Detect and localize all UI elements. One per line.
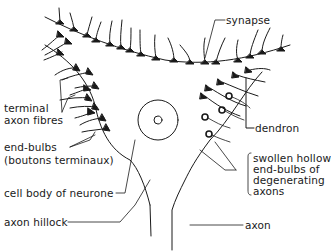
- axon-left-outline: [150, 205, 151, 236]
- label-terminal-axon-fibres-2: axon fibres: [4, 114, 63, 126]
- label-axon: axon: [245, 219, 271, 231]
- cell-body: [138, 100, 178, 140]
- label-axon-hillock: axon hillock: [4, 216, 68, 228]
- label-cell-body: cell body of neurone: [4, 187, 114, 199]
- dendron-line: [246, 78, 254, 128]
- right-synapses: [200, 67, 270, 128]
- label-dendron: dendron: [255, 122, 299, 134]
- label-synapse: synapse: [226, 14, 270, 26]
- label-terminal-axon-fibres-1: terminal: [4, 102, 49, 114]
- nucleus: [154, 116, 162, 124]
- swollen-label-brace: [248, 153, 251, 195]
- label-swollen-4: axons: [253, 185, 284, 197]
- label-end-bulbs-1: end-bulbs: [4, 141, 57, 153]
- label-end-bulbs-2: (boutons terminaux): [4, 154, 114, 166]
- swollen-end-bulbs: [202, 93, 232, 137]
